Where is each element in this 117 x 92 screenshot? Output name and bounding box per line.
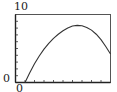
- chart-plot-area: [0, 0, 117, 92]
- data-curve: [25, 25, 111, 82]
